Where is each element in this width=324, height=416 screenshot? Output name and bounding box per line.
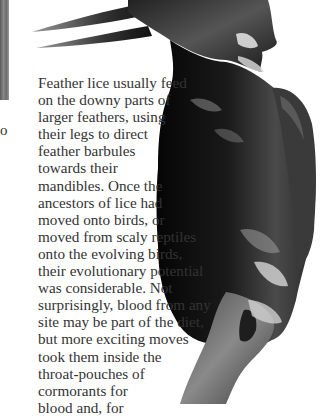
text-line: was considerable. Not — [38, 279, 238, 296]
text-line: larger feathers, using — [38, 108, 238, 125]
text-line: towards their — [38, 159, 238, 176]
text-line: cormorants for — [38, 382, 238, 399]
text-line: on the downy parts of — [38, 91, 238, 108]
text-line: moved from scaly reptiles — [38, 228, 238, 245]
text-line: moved onto birds, or — [38, 211, 238, 228]
text-line: throat-pouches of — [38, 365, 238, 382]
text-line: site may be part of the diet, — [38, 313, 238, 330]
text-line: but more exciting moves — [38, 330, 238, 347]
text-line: surprisingly, blood from any — [38, 296, 238, 313]
body-paragraph: Feather lice usually feed on the downy p… — [38, 74, 238, 416]
text-line: blood and, for — [38, 399, 238, 416]
text-line: ancestors of lice had — [38, 194, 238, 211]
text-line: their evolutionary potential — [38, 262, 238, 279]
text-line: feather barbules — [38, 142, 238, 159]
text-line: Feather lice usually feed — [38, 74, 238, 91]
text-line: their legs to direct — [38, 125, 238, 142]
text-line: mandibles. Once the — [38, 177, 238, 194]
text-line: took them inside the — [38, 348, 238, 365]
text-line: onto the evolving birds, — [38, 245, 238, 262]
